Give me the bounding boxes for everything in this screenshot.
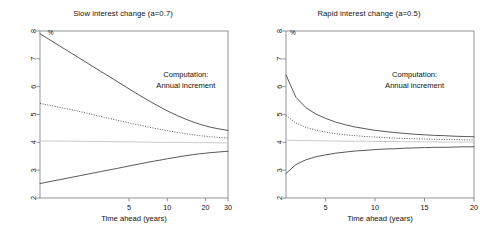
y-tick-label: 7 bbox=[275, 57, 284, 61]
x-tick-label: 30 bbox=[224, 203, 232, 212]
x-axis-label: Time ahead (years) bbox=[347, 214, 413, 223]
chart-panel-rapid: Rapid interest change (a=0.5) 2345678510… bbox=[246, 0, 492, 238]
x-tick-label: 20 bbox=[202, 203, 210, 212]
y-tick-label: 2 bbox=[29, 196, 38, 200]
curve-baseline-level bbox=[286, 140, 474, 142]
y-tick-label: 4 bbox=[29, 140, 38, 144]
curve-lower-bound bbox=[40, 151, 228, 183]
x-tick-label: 5 bbox=[127, 203, 131, 212]
curve-upper-bound bbox=[286, 75, 474, 137]
curve-lower-bound bbox=[286, 147, 474, 174]
annotation-text: Computation: bbox=[392, 70, 437, 79]
unit-label-percent: % bbox=[290, 29, 296, 36]
y-tick-label: 6 bbox=[275, 85, 284, 89]
y-tick-label: 8 bbox=[275, 29, 284, 33]
x-tick-label: 10 bbox=[371, 203, 379, 212]
chart-panel-slow: Slow interest change (a=0.7) 23456785102… bbox=[0, 0, 246, 238]
y-tick-label: 4 bbox=[275, 140, 284, 144]
y-tick-label: 7 bbox=[29, 57, 38, 61]
curve-baseline-level bbox=[40, 141, 228, 143]
y-tick-label: 3 bbox=[29, 168, 38, 172]
unit-label-percent: % bbox=[48, 29, 54, 36]
y-tick-label: 6 bbox=[29, 85, 38, 89]
y-tick-label: 3 bbox=[275, 168, 284, 172]
plot-area-rapid: 23456785101520Time ahead (years)Computat… bbox=[246, 0, 492, 238]
curve-median-projection bbox=[40, 103, 228, 138]
x-tick-label: 15 bbox=[421, 203, 429, 212]
y-tick-label: 8 bbox=[29, 29, 38, 33]
x-axis-label: Time ahead (years) bbox=[101, 214, 167, 223]
x-tick-label: 20 bbox=[470, 203, 478, 212]
annotation-text: Computation: bbox=[163, 70, 208, 79]
y-tick-label: 5 bbox=[275, 113, 284, 117]
y-tick-label: 5 bbox=[29, 113, 38, 117]
x-tick-label: 5 bbox=[324, 203, 328, 212]
x-tick-label: 10 bbox=[163, 203, 171, 212]
plot-area-slow: 23456785102030Time ahead (years)Computat… bbox=[0, 0, 246, 238]
annotation-text: Annual increment bbox=[385, 81, 445, 90]
y-tick-label: 2 bbox=[275, 196, 284, 200]
annotation-text: Annual increment bbox=[156, 81, 216, 90]
figure-canvas: Slow interest change (a=0.7) 23456785102… bbox=[0, 0, 492, 238]
